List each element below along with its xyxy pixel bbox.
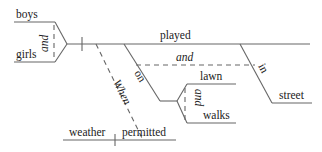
sentence-diagram: boys girls and played and on When lawn w… xyxy=(0,0,322,152)
word-on: on xyxy=(132,68,148,84)
word-subject-and: and xyxy=(38,35,50,53)
word-girls: girls xyxy=(16,48,37,61)
word-played: played xyxy=(160,29,191,42)
word-street: street xyxy=(279,89,305,101)
preposition-in-line xyxy=(240,44,272,103)
word-object-and: and xyxy=(193,89,205,107)
word-lawn: lawn xyxy=(200,70,223,82)
word-when: When xyxy=(111,77,134,106)
word-weather: weather xyxy=(69,126,106,138)
word-walks: walks xyxy=(203,109,230,121)
word-permitted: permitted xyxy=(122,126,166,139)
word-boys: boys xyxy=(16,8,38,21)
fork-lower xyxy=(55,44,67,62)
fork-upper xyxy=(55,22,67,44)
word-compound-and: and xyxy=(176,51,194,63)
word-in: in xyxy=(256,61,271,75)
